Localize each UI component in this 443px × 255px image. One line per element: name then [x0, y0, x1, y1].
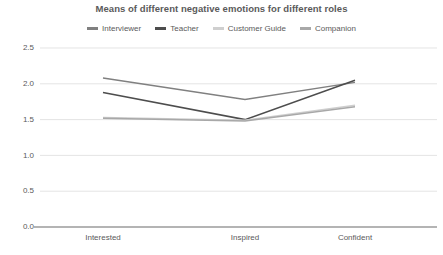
y-axis-tick-labels: 0.00.51.01.52.02.5: [23, 43, 35, 231]
y-tick-label: 0.0: [23, 222, 35, 231]
y-tick-label: 1.5: [23, 115, 35, 124]
x-tick-label: Inspired: [231, 233, 259, 242]
plot-svg: 0.00.51.01.52.02.5 InterestedInspiredCon…: [0, 0, 443, 255]
chart-container: Means of different negative emotions for…: [0, 0, 443, 255]
y-tick-label: 2.0: [23, 79, 35, 88]
x-tick-label: Confident: [338, 233, 373, 242]
y-tick-label: 2.5: [23, 43, 35, 52]
y-tick-label: 1.0: [23, 151, 35, 160]
series-lines: [103, 78, 355, 121]
series-line-customer-guide: [103, 105, 355, 120]
plot-area: 0.00.51.01.52.02.5 InterestedInspiredCon…: [0, 0, 443, 255]
series-line-companion: [103, 107, 355, 121]
series-line-teacher: [103, 80, 355, 119]
x-tick-label: Interested: [85, 233, 121, 242]
x-axis-tick-labels: InterestedInspiredConfident: [85, 233, 373, 242]
series-line-interviewer: [103, 78, 355, 99]
y-tick-label: 0.5: [23, 186, 35, 195]
